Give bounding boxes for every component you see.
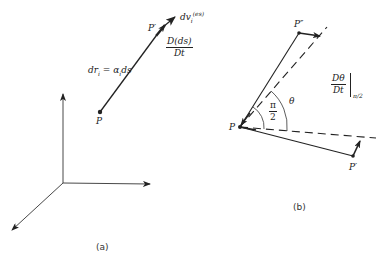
label-rate-eval: π/2 — [353, 93, 363, 99]
angle-arc-right — [253, 107, 264, 129]
label-p-prime-b: P′ — [349, 163, 357, 172]
caption-a: (a) — [96, 243, 109, 252]
diagram-canvas — [0, 0, 390, 260]
arrow-at-p1 — [353, 141, 360, 156]
rate-ds-denominator: Dt — [174, 48, 185, 58]
label-rate-theta: Dθ Dt — [331, 74, 346, 96]
element-eq: = α — [100, 65, 119, 75]
element-tail: ds — [121, 65, 131, 75]
velocity-dv: dv — [180, 12, 191, 22]
rate-theta-numerator: Dθ — [331, 74, 346, 85]
label-p-b: P — [229, 123, 235, 132]
right-angle-numerator: π — [269, 101, 277, 112]
label-velocity: dvi(es) — [180, 11, 204, 24]
element-d-r: dr — [88, 65, 98, 75]
label-theta: θ — [289, 97, 294, 106]
arrow-at-p2 — [299, 33, 320, 36]
axis-y — [63, 183, 150, 184]
point-p-dot-b — [238, 125, 242, 129]
point-p-dot — [98, 110, 102, 114]
evaluation-bar — [350, 73, 351, 97]
point-p2-dot — [297, 31, 301, 35]
velocity-sub: i — [191, 17, 193, 24]
arrow-at-p — [241, 113, 250, 125]
label-p-prime-a: P′ — [148, 24, 156, 33]
rate-ds-numerator: D(ds) — [166, 37, 193, 48]
axis-x — [12, 183, 63, 230]
caption-b: (b) — [293, 203, 306, 212]
point-p1-dot — [351, 154, 355, 158]
label-p-double-prime: P″ — [294, 20, 303, 29]
label-rate-ds: D(ds) Dt — [166, 37, 193, 59]
velocity-arrow — [163, 17, 175, 27]
label-line-element: dri = αids — [88, 66, 132, 77]
right-angle-denominator: 2 — [270, 112, 276, 122]
label-p-a: P — [96, 117, 102, 126]
rate-theta-denominator: Dt — [333, 85, 344, 95]
figure-a — [12, 17, 175, 230]
dashed-deformed-upper — [240, 27, 327, 127]
label-right-angle: π 2 — [269, 101, 277, 123]
velocity-sup: (es) — [193, 10, 204, 17]
